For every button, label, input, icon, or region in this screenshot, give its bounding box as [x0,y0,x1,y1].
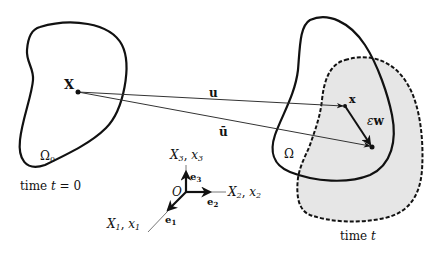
label-omega: Ω [284,147,294,161]
point-perturbed [370,145,375,150]
label-u: u [209,86,218,100]
label-u-bar: ū [219,125,228,139]
label-X: X [64,77,75,92]
deformation-diagram: X x u ū εw Ω0 Ω time t = 0 time t O e3 e… [0,0,437,270]
diagram-canvas: X x u ū εw Ω0 Ω time t = 0 time t O e3 e… [0,0,437,270]
label-x: x [349,93,356,106]
point-X [76,90,81,95]
label-e2: e2 [207,196,218,209]
label-axis-1: X1, x1 [106,217,140,232]
point-x [343,104,347,108]
caption-time-t: time t [340,229,376,243]
caption-time-zero: time t = 0 [20,179,81,193]
label-e1: e1 [165,214,176,227]
label-axis-3: X3, x3 [169,148,203,163]
reference-region-boundary [20,23,127,167]
label-omega-0: Ω0 [40,149,55,164]
label-epsilon-w: εw [367,114,384,128]
label-origin: O [172,185,182,199]
label-axis-2: X2, x2 [227,185,261,200]
perturbed-region-boundary [297,57,422,221]
label-e3: e3 [190,171,201,184]
